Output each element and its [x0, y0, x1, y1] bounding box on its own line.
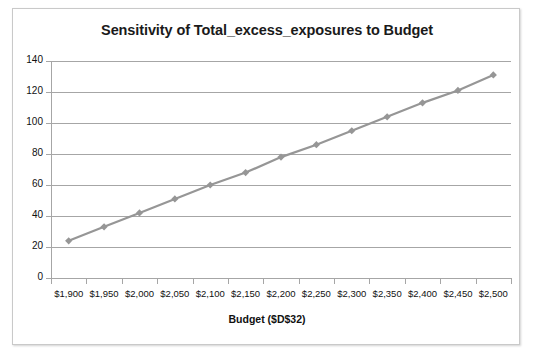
x-tick-mark [122, 279, 123, 284]
x-axis-title: Budget ($D$32) [13, 313, 521, 325]
x-tick-mark [228, 279, 229, 284]
x-axis-tick-label: $2,300 [334, 288, 370, 299]
x-tick-mark [369, 279, 370, 284]
y-axis-tick-label: 100 [13, 116, 43, 127]
x-axis-tick-label: $2,400 [405, 288, 441, 299]
x-axis-tick-label: $2,450 [440, 288, 476, 299]
gridline [51, 92, 511, 93]
y-axis-tick-label: 40 [13, 209, 43, 220]
x-axis-tick-label: $2,500 [475, 288, 511, 299]
x-axis-line [51, 278, 512, 279]
y-axis-tick-label: 80 [13, 147, 43, 158]
x-tick-mark [405, 279, 406, 284]
x-axis-tick-label: $2,350 [369, 288, 405, 299]
x-axis-tick-label: $1,950 [86, 288, 122, 299]
x-tick-mark [86, 279, 87, 284]
x-axis-labels: $1,900$1,950$2,000$2,050$2,100$2,150$2,2… [51, 288, 511, 304]
y-axis-tick-label: 140 [13, 54, 43, 65]
x-tick-mark [440, 279, 441, 284]
x-axis-tick-label: $2,000 [121, 288, 157, 299]
gridline [51, 247, 511, 248]
gridline [51, 154, 511, 155]
y-axis-tick-label: 120 [13, 85, 43, 96]
x-axis-tick-label: $2,150 [228, 288, 264, 299]
gridline [51, 61, 511, 62]
x-tick-mark [51, 279, 52, 284]
gridline [51, 123, 511, 124]
chart-container: Sensitivity of Total_excess_exposures to… [12, 8, 520, 345]
x-tick-mark [476, 279, 477, 284]
x-tick-mark [511, 279, 512, 284]
y-axis-tick-label: 60 [13, 178, 43, 189]
x-tick-mark [193, 279, 194, 284]
gridline [51, 185, 511, 186]
x-axis-tick-label: $2,050 [157, 288, 193, 299]
gridline [51, 216, 511, 217]
chart-title: Sensitivity of Total_excess_exposures to… [13, 22, 521, 38]
x-axis-tick-label: $2,100 [192, 288, 228, 299]
x-tick-mark [157, 279, 158, 284]
y-axis-tick-label: 0 [13, 271, 43, 282]
x-tick-mark [299, 279, 300, 284]
x-tick-mark [334, 279, 335, 284]
y-axis-tick-label: 20 [13, 240, 43, 251]
x-axis-tick-label: $2,250 [298, 288, 334, 299]
x-tick-mark [263, 279, 264, 284]
x-axis-tick-label: $1,900 [51, 288, 87, 299]
x-axis-tick-label: $2,200 [263, 288, 299, 299]
plot-area [51, 61, 511, 278]
